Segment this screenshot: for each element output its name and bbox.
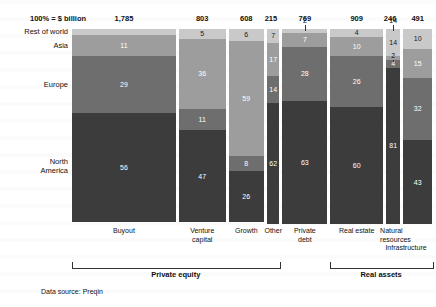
segment-north-america[interactable]: 81 xyxy=(386,68,400,224)
category-label-line1: Buyout xyxy=(72,227,176,236)
segment-north-america[interactable]: 60 xyxy=(330,107,383,224)
category-label-line2: capital xyxy=(179,236,226,245)
segment-value: 4 xyxy=(355,29,359,36)
segment-asia[interactable]: 15 xyxy=(403,49,432,78)
segment-value: 11 xyxy=(120,42,127,49)
segment-europe[interactable]: 28 xyxy=(282,47,327,102)
segment-value: 10 xyxy=(353,43,361,50)
annotation-leader-line xyxy=(305,25,306,31)
column-total-buyout: 1,785 xyxy=(72,14,176,23)
segment-europe[interactable]: 11 xyxy=(179,109,226,130)
segment-value: 15 xyxy=(414,60,422,67)
column-total-other: 215 xyxy=(259,14,283,23)
segment-europe[interactable]: 8 xyxy=(229,156,264,172)
segment-value: 47 xyxy=(198,173,206,180)
column-totals-row: 1,785803608215769909246491 xyxy=(72,14,432,26)
category-label-line1: Real estate xyxy=(330,227,383,236)
segment-value: 5 xyxy=(200,30,204,37)
segment-north-america[interactable]: 63 xyxy=(282,101,327,224)
bracket-group-real-assets xyxy=(330,262,434,269)
segment-europe[interactable]: 14 xyxy=(267,76,280,103)
segment-value: 7 xyxy=(271,32,275,39)
column-other[interactable]: 7171462 xyxy=(267,29,280,224)
category-label-line2: debt xyxy=(282,236,327,245)
segment-value: 26 xyxy=(353,78,361,85)
segment-value: 56 xyxy=(120,164,128,171)
segment-europe[interactable]: 32 xyxy=(403,78,432,140)
column-total-venture-capital: 803 xyxy=(179,14,226,23)
category-label-venture-capital: Venturecapital xyxy=(179,227,226,244)
row-label-asia: Asia xyxy=(53,42,68,51)
category-label-line1: Infrastructure xyxy=(385,244,436,253)
category-label-line1: Private xyxy=(282,227,327,236)
segment-value: 43 xyxy=(414,179,422,186)
row-label-europe: Europe xyxy=(44,81,68,90)
segment-value: 62 xyxy=(269,160,277,167)
category-label-line1: Venture xyxy=(179,227,226,236)
row-label-rest-of-world: Rest of world xyxy=(24,28,68,37)
group-label-private-equity: Private equity xyxy=(72,270,279,279)
segment-asia[interactable]: 11 xyxy=(72,35,176,56)
segment-value: 6 xyxy=(244,31,248,38)
annotation-value: 14 xyxy=(385,17,401,25)
category-axis-labels: BuyoutVenturecapitalGrowthOtherPrivatede… xyxy=(72,227,432,255)
column-buyout[interactable]: 112956 xyxy=(72,29,176,224)
group-label-real-assets: Real assets xyxy=(330,270,432,279)
segment-asia[interactable]: 7 xyxy=(282,33,327,47)
bracket-group-private-equity xyxy=(72,262,281,269)
column-total-infrastructure: 491 xyxy=(403,14,432,23)
column-private-debt[interactable]: 72863 xyxy=(282,29,327,224)
column-venture-capital[interactable]: 5361147 xyxy=(179,29,226,224)
row-label-line2: America xyxy=(40,167,68,176)
annotation-value: 2 xyxy=(385,52,401,60)
category-label-buyout: Buyout xyxy=(72,227,176,236)
segment-asia[interactable]: 10 xyxy=(330,37,383,57)
segment-value: 8 xyxy=(244,160,248,167)
marimekko-plot-area: 1129565361147659826717146272863410266014… xyxy=(72,29,432,224)
segment-value: 60 xyxy=(353,162,361,169)
segment-value: 17 xyxy=(269,56,277,63)
column-total-real-estate: 909 xyxy=(330,14,383,23)
segment-north-america[interactable]: 56 xyxy=(72,113,176,222)
segment-value: 29 xyxy=(120,81,128,88)
segment-rest-of-world[interactable]: 4 xyxy=(330,29,383,37)
annotation-leader-line xyxy=(393,60,394,62)
segment-value: 32 xyxy=(414,105,422,112)
row-label-north-america: NorthAmerica xyxy=(40,158,68,175)
segment-rest-of-world[interactable]: 6 xyxy=(229,29,264,41)
category-label-natural-resources: Naturalresources xyxy=(380,227,420,244)
segment-value: 81 xyxy=(389,142,397,149)
segment-north-america[interactable]: 47 xyxy=(179,130,226,222)
segment-rest-of-world[interactable]: 5 xyxy=(179,29,226,39)
column-growth[interactable]: 659826 xyxy=(229,29,264,224)
category-label-real-estate: Real estate xyxy=(330,227,383,236)
segment-value: 36 xyxy=(198,70,206,77)
segment-value: 10 xyxy=(414,35,422,42)
segment-asia[interactable]: 36 xyxy=(179,39,226,109)
segment-asia[interactable]: 17 xyxy=(267,43,280,76)
segment-europe[interactable]: 29 xyxy=(72,56,176,113)
annotation-value: 2 xyxy=(297,17,313,25)
segment-value: 14 xyxy=(389,39,397,46)
category-label-private-debt: Privatedebt xyxy=(282,227,327,244)
segment-north-america[interactable]: 62 xyxy=(267,103,280,224)
segment-value: 59 xyxy=(242,95,250,102)
segment-asia[interactable]: 59 xyxy=(229,41,264,156)
segment-rest-of-world[interactable]: 10 xyxy=(403,29,432,49)
segment-value: 7 xyxy=(303,36,307,43)
segment-value: 11 xyxy=(199,116,206,123)
segment-north-america[interactable]: 43 xyxy=(403,140,432,224)
segment-north-america[interactable]: 26 xyxy=(229,171,264,222)
series-row-labels: Rest of worldAsiaEuropeNorthAmerica xyxy=(0,29,70,224)
category-label-line1: Natural xyxy=(380,227,420,236)
category-label-infrastructure: Infrastructure xyxy=(385,244,436,253)
data-source-note: Data source: Preqin xyxy=(41,288,103,295)
column-real-estate[interactable]: 4102660 xyxy=(330,29,383,224)
segment-value: 14 xyxy=(269,86,277,93)
segment-value: 63 xyxy=(301,159,309,166)
column-infrastructure[interactable]: 10153243 xyxy=(403,29,432,224)
segment-rest-of-world[interactable]: 7 xyxy=(267,29,280,43)
segment-europe[interactable]: 26 xyxy=(330,56,383,107)
category-label-line2: resources xyxy=(380,236,420,245)
segment-value: 28 xyxy=(301,70,309,77)
